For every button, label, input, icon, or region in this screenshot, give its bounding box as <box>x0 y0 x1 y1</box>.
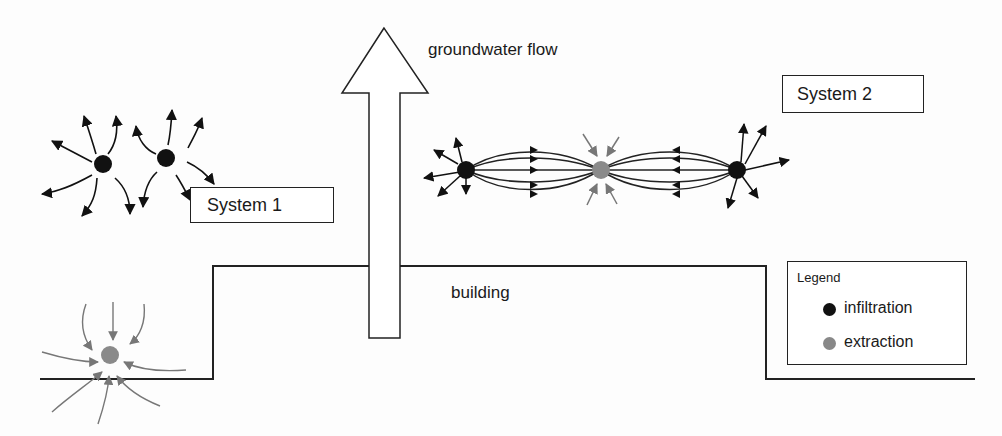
diagram-canvas: groundwater flow building System 1 Syste… <box>0 0 1002 436</box>
system2-label: System 2 <box>797 84 872 105</box>
infiltration-well-icon <box>728 161 746 179</box>
extraction-well-icon <box>592 161 610 179</box>
infiltration-well-icon <box>94 155 112 173</box>
legend-title: Legend <box>797 270 840 285</box>
legend-item-infiltration: infiltration <box>844 299 912 317</box>
extraction-well-bottom-left <box>42 302 186 424</box>
diagram-graphics <box>0 0 1002 436</box>
building-label: building <box>451 283 510 303</box>
system2-doublet <box>424 124 789 208</box>
system1-wells <box>42 110 214 216</box>
infiltration-swatch-icon <box>823 303 836 316</box>
extraction-swatch-icon <box>823 337 836 350</box>
infiltration-well-icon <box>157 149 175 167</box>
groundwater-flow-arrow-icon <box>342 28 428 338</box>
system1-label: System 1 <box>207 195 282 216</box>
system1-box: System 1 <box>190 187 334 223</box>
groundwater-flow-label: groundwater flow <box>428 40 557 60</box>
extraction-well-icon <box>101 346 119 364</box>
legend-box: Legend infiltration extraction <box>787 261 967 365</box>
infiltration-well-icon <box>457 161 475 179</box>
legend-item-extraction: extraction <box>844 333 913 351</box>
system2-box: System 2 <box>782 75 924 113</box>
